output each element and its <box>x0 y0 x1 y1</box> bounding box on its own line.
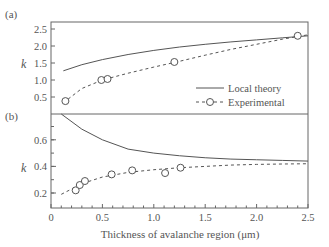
legend: Local theory Experimental <box>196 83 285 108</box>
x-tick-label: 0.5 <box>96 212 109 223</box>
experimental-data-point <box>171 58 178 65</box>
x-tick-label: 2.0 <box>250 212 263 223</box>
experimental-data-point <box>129 167 136 174</box>
panel-b-label: (b) <box>5 110 18 123</box>
plot-border <box>51 22 308 208</box>
experimental-data-point <box>104 75 111 82</box>
x-tick-label: 0 <box>48 212 53 223</box>
x-axis-label: Thickness of avalanche region (μm) <box>101 228 260 241</box>
local-theory-line <box>61 114 308 161</box>
y-tick-label: 1.0 <box>34 75 47 86</box>
panel-a-label: (a) <box>5 8 18 21</box>
experimental-data-point <box>108 171 115 178</box>
plot-frames <box>51 22 308 208</box>
panel-a-ylabel: k <box>21 57 27 71</box>
y-tick-label: 0.2 <box>34 188 47 199</box>
y-tick-label: 2.0 <box>34 41 47 52</box>
legend-experimental: Experimental <box>228 97 285 108</box>
y-tick-label: 0.4 <box>34 161 48 172</box>
y-tick-label: 0.5 <box>34 92 47 103</box>
experimental-data-point <box>177 164 184 171</box>
experimental-data-point <box>162 170 169 177</box>
panel-b-series <box>61 114 308 194</box>
x-tick-label: 2.5 <box>301 212 314 223</box>
legend-circle-marker-icon <box>207 99 214 106</box>
x-tick-label: 1.0 <box>147 212 160 223</box>
panel-b-ylabel: k <box>21 161 27 175</box>
figure: 0.51.01.52.02.5 0.20.40.600.51.01.52.02.… <box>0 0 329 247</box>
panel-a-axes: 0.51.01.52.02.5 <box>34 24 55 103</box>
experimental-data-point <box>62 98 69 105</box>
experimental-data-point <box>81 178 88 185</box>
y-tick-label: 2.5 <box>34 24 47 35</box>
panel-b-axes: 0.20.40.600.51.01.52.02.5 <box>34 127 315 224</box>
legend-local-theory: Local theory <box>228 83 282 94</box>
y-tick-label: 0.6 <box>34 135 47 146</box>
y-tick-label: 1.5 <box>34 58 47 69</box>
experimental-data-point <box>294 32 301 39</box>
experimental-fit-line <box>61 164 308 195</box>
x-tick-label: 1.5 <box>199 212 212 223</box>
